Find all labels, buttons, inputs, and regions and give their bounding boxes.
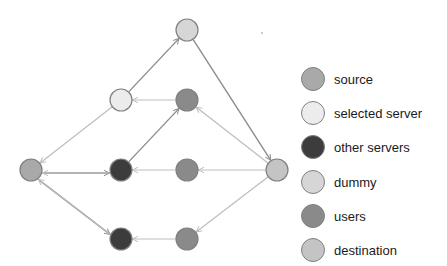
edge-destination-to-user_top: [196, 107, 268, 163]
node-server-bot: [110, 228, 132, 250]
legend-item-source: source: [300, 67, 373, 91]
stray-dot: [261, 32, 263, 34]
selected-server-swatch-icon: [301, 101, 325, 125]
legend-item-selected-server: selected server: [300, 101, 422, 125]
node-destination: [266, 159, 288, 181]
dummy-swatch-icon: [301, 170, 325, 194]
edge-destination-to-user_bot: [196, 177, 268, 232]
edge-server_bot-to-source: [38, 179, 110, 234]
node-user-mid: [176, 159, 198, 181]
legend-item-dummy: dummy: [300, 170, 377, 194]
edge-dummy-to-destination: [193, 40, 271, 161]
destination-swatch-icon: [301, 238, 325, 262]
node-dummy: [176, 19, 198, 41]
legend-label: destination: [334, 243, 397, 258]
source-swatch-icon: [301, 67, 325, 91]
legend-label: users: [334, 209, 366, 224]
legend-label: dummy: [334, 175, 377, 190]
legend-label: selected server: [334, 106, 422, 121]
users-swatch-icon: [301, 204, 325, 228]
other-servers-swatch-icon: [301, 135, 325, 159]
node-server-mid: [110, 159, 132, 181]
legend-item-users: users: [300, 204, 366, 228]
legend-item-other-servers: other servers: [300, 135, 410, 159]
node-selected: [110, 89, 132, 111]
edge-server_mid-to-user_top: [129, 108, 179, 161]
edges-layer: [38, 38, 270, 239]
legend-item-destination: destination: [300, 238, 397, 262]
legend-label: other servers: [334, 140, 410, 155]
node-user-top: [176, 89, 198, 111]
legend: source selected server other servers dum…: [300, 0, 447, 266]
network-diagram: [0, 0, 300, 266]
node-user-bot: [176, 228, 198, 250]
node-source: [20, 159, 42, 181]
edge-selected-to-dummy: [129, 38, 179, 91]
edge-selected-to-source: [40, 107, 112, 163]
legend-label: source: [334, 72, 373, 87]
